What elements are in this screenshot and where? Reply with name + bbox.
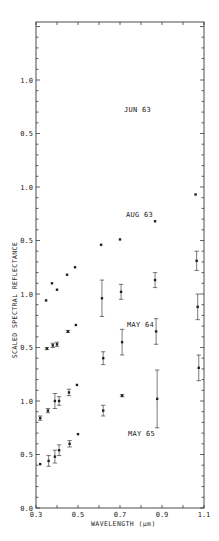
data-point (39, 463, 41, 465)
data-point (54, 400, 56, 402)
data-point (45, 299, 47, 301)
data-point (119, 238, 121, 240)
data-point (51, 282, 53, 284)
data-point (194, 193, 196, 195)
data-point (74, 266, 76, 268)
data-point (121, 341, 123, 343)
data-point (67, 330, 69, 332)
panel-label-jun63: JUN 63 (124, 106, 151, 114)
data-point (58, 449, 60, 451)
x-axis-ticks (36, 22, 204, 508)
panel-label-may65: MAY 65 (128, 430, 155, 438)
data-point (56, 343, 58, 345)
data-point (77, 433, 79, 435)
y-tick-label: 0.5 (20, 344, 33, 352)
data-point (155, 330, 157, 332)
data-point (101, 297, 103, 299)
y-tick-label: 1.0 (20, 398, 33, 406)
data-point (56, 289, 58, 291)
y-tick-label: 0.5 (20, 451, 33, 459)
plot-frame (36, 22, 204, 508)
x-axis-title: WAVELENGTH (μm) (91, 520, 156, 528)
y-tick-label: 0.5 (20, 130, 33, 138)
x-tick-label: 0.7 (114, 511, 127, 519)
y-axis-title: SCALED SPECTRAL REFLECTANCE (11, 242, 19, 358)
series-aug-63 (45, 251, 199, 350)
y-axis-tick-labels: 1.00.51.00.51.00.51.00.50.0 (20, 77, 33, 513)
data-point (156, 398, 158, 400)
series-may-64 (38, 294, 200, 420)
data-point (54, 455, 56, 457)
y-tick-label: 0.5 (20, 237, 33, 245)
y-tick-label: 1.0 (20, 77, 33, 85)
data-point (195, 260, 197, 262)
data-point (102, 409, 104, 411)
x-tick-label: 0.5 (72, 511, 85, 519)
series-may-65 (39, 355, 201, 466)
data-point (47, 409, 49, 411)
y-tick-label: 1.0 (20, 291, 33, 299)
y-axis-ticks (36, 27, 204, 509)
panel-label-may64: MAY 64 (127, 321, 154, 329)
data-point (39, 417, 41, 419)
data-point (66, 274, 68, 276)
x-tick-label: 1.1 (198, 511, 211, 519)
x-tick-label: 0.9 (156, 511, 169, 519)
data-point (154, 220, 156, 222)
data-point (154, 279, 156, 281)
data-point (100, 244, 102, 246)
data-point (47, 460, 49, 462)
data-point (102, 357, 104, 359)
data-point (120, 291, 122, 293)
data-point (76, 384, 78, 386)
data-point (46, 347, 48, 349)
y-tick-label: 1.0 (20, 184, 33, 192)
panel-label-aug63: AUG 63 (126, 211, 153, 219)
y-tick-label: 0.0 (20, 505, 33, 513)
reflectance-chart: 0.30.50.70.91.1 1.00.51.00.51.00.51.00.5… (0, 0, 219, 541)
data-point (68, 391, 70, 393)
data-point (58, 400, 60, 402)
x-axis-tick-labels: 0.30.50.70.91.1 (30, 511, 211, 519)
data-point (52, 344, 54, 346)
data-points (38, 193, 201, 466)
data-point (75, 324, 77, 326)
data-point (197, 306, 199, 308)
data-point (198, 367, 200, 369)
data-point (68, 443, 70, 445)
data-point (121, 394, 123, 396)
